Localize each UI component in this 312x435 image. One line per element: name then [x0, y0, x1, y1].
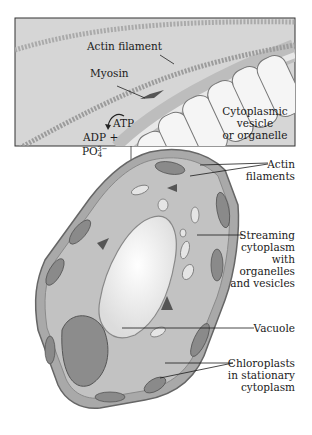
label-phosphate: PO43− [82, 143, 107, 161]
vesicle-line-3: or organelle [220, 129, 290, 141]
nucleus [62, 316, 108, 387]
streaming-line-2: cytoplasm [215, 241, 295, 253]
diagram: Actin filament Myosin ATP ADP + PO43− Cy… [0, 0, 312, 435]
actin-filaments-line-2: filaments [225, 170, 295, 182]
chloroplasts-line-2: in stationary [215, 369, 295, 381]
label-streaming-cytoplasm: Streaming cytoplasm with organelles and … [215, 229, 295, 289]
chloroplasts-line-1: Chloroplasts [215, 357, 295, 369]
streaming-line-1: Streaming [215, 229, 295, 241]
plant-cell [36, 149, 239, 408]
label-actin-filaments: Actin filaments [225, 158, 295, 182]
label-actin-filament: Actin filament [87, 40, 162, 52]
vesicle-line-1: Cytoplasmic [220, 105, 290, 117]
label-chloroplasts: Chloroplasts in stationary cytoplasm [215, 357, 295, 393]
chloroplasts-line-3: cytoplasm [215, 381, 295, 393]
phosphate-base: PO [82, 145, 98, 157]
actin-filaments-line-1: Actin [225, 158, 295, 170]
vesicle-line-2: vesicle [220, 117, 290, 129]
phosphate-superscript: 3− [97, 145, 107, 153]
streaming-line-5: and vesicles [215, 277, 295, 289]
label-cytoplasmic-vesicle: Cytoplasmic vesicle or organelle [220, 105, 290, 141]
label-myosin: Myosin [90, 67, 129, 79]
streaming-line-4: organelles [215, 265, 295, 277]
label-adp: ADP + [83, 131, 118, 143]
label-vacuole: Vacuole [235, 322, 295, 334]
label-atp: ATP [113, 117, 134, 129]
streaming-line-3: with [215, 253, 295, 265]
